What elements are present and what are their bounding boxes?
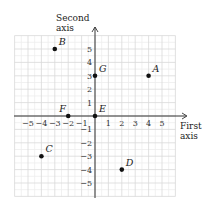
point-d	[120, 167, 125, 172]
y-tick-label: 5	[87, 45, 92, 54]
x-tick-label: 1	[106, 119, 111, 128]
y-tick-label: −3	[80, 152, 92, 161]
x-tick-label: −3	[49, 119, 61, 128]
x-tick-label: 3	[133, 119, 138, 128]
point-label-g: G	[99, 63, 107, 74]
x-axis-label-line2: axis	[180, 131, 198, 141]
x-tick-label: 2	[119, 119, 124, 128]
y-tick-label: −4	[80, 166, 92, 175]
point-f	[66, 114, 71, 119]
x-tick-labels: −5−4−3−2−112345	[22, 119, 164, 128]
point-label-b: B	[58, 36, 66, 47]
point-label-e: E	[98, 103, 106, 114]
y-tick-label: 1	[87, 99, 92, 108]
y-tick-label: 2	[87, 85, 92, 94]
x-tick-label: 4	[146, 119, 151, 128]
x-tick-label: −4	[36, 119, 48, 128]
point-e	[93, 114, 98, 119]
point-label-d: D	[125, 157, 134, 168]
point-label-f: F	[58, 103, 66, 114]
y-tick-label: −5	[80, 179, 92, 188]
y-tick-label: −2	[80, 139, 92, 148]
point-label-c: C	[45, 143, 53, 154]
x-axis-label-line1: First	[180, 121, 202, 131]
point-c	[39, 154, 44, 159]
y-tick-label: 3	[87, 72, 92, 81]
x-tick-label: −2	[62, 119, 74, 128]
y-tick-label: −1	[80, 125, 92, 134]
point-a	[146, 74, 151, 79]
x-tick-label: −5	[22, 119, 34, 128]
y-axis-label-line2: axis	[56, 23, 74, 33]
y-axis-label-line1: Second	[56, 13, 90, 23]
point-label-a: A	[152, 63, 160, 74]
point-b	[53, 47, 58, 52]
point-g	[93, 74, 98, 79]
y-tick-label: 4	[87, 58, 92, 67]
x-tick-label: 5	[159, 119, 164, 128]
coordinate-plane: −5−4−3−2−112345 54321−1−2−3−4−5 ABCDEFG …	[0, 0, 212, 202]
